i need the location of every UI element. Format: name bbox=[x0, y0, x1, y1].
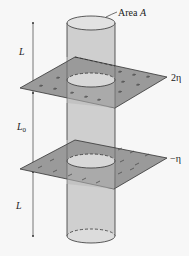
area-leader-line bbox=[106, 12, 117, 17]
upper-density-label: 2η bbox=[171, 72, 181, 83]
length-middle-label: L0 bbox=[16, 121, 27, 134]
gaussian-cylinder-diagram: Area A L L0 L 2η −η bbox=[0, 0, 189, 256]
length-top-label: L bbox=[18, 46, 25, 57]
cylinder-body bbox=[67, 23, 115, 236]
cylinder-bottom-cap bbox=[67, 229, 115, 243]
lower-density-label: −η bbox=[170, 153, 181, 164]
length-bottom-label: L bbox=[15, 200, 22, 211]
area-label: Area A bbox=[118, 7, 147, 18]
cylinder-top-cap bbox=[67, 16, 115, 30]
cylinder-front-lower bbox=[67, 154, 115, 189]
